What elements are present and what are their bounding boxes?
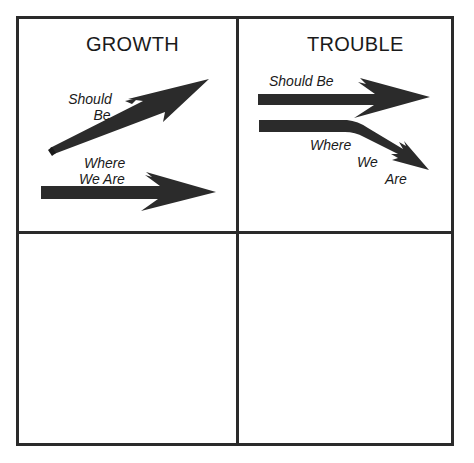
growth-we-are-label: We Are (79, 171, 125, 187)
trouble-where-label: Where (310, 137, 351, 153)
growth-should-label: Should (60, 91, 120, 107)
growth-where-we-are-arrow-icon (41, 172, 216, 211)
bottom-left-quadrant (19, 234, 236, 443)
trouble-are-label: Are (385, 171, 407, 187)
bottom-right-quadrant (239, 234, 451, 443)
trouble-we-label: We (357, 154, 378, 170)
growth-where-label: Where (84, 155, 125, 171)
trouble-should-be-label: Should Be (269, 73, 334, 89)
growth-be-label: Be (72, 107, 132, 123)
